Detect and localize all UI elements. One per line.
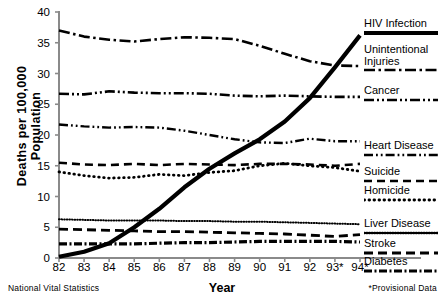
- source-note: National Vital Statistics: [8, 283, 99, 293]
- series-line-stroke: [59, 229, 360, 236]
- chart-figure: Deaths per 100,000 Population 4035302520…: [0, 0, 444, 298]
- legend-swatch: [364, 230, 438, 236]
- legend-item-liver-disease[interactable]: Liver Disease: [364, 218, 438, 236]
- legend-swatch: [364, 152, 438, 158]
- legend-item-diabetes[interactable]: Diabetes: [364, 256, 438, 274]
- series-line-suicide: [59, 163, 360, 166]
- legend-label: Homicide: [364, 185, 438, 197]
- legend-label: Stroke: [364, 238, 438, 250]
- provisional-note: *Provisional Data: [368, 283, 437, 293]
- legend-item-suicide[interactable]: Suicide: [364, 166, 438, 184]
- legend-label: Liver Disease: [364, 218, 438, 230]
- legend-label: Cancer: [364, 85, 438, 97]
- legend-swatch: [364, 197, 438, 203]
- legend-label: Unintentional: [364, 44, 438, 56]
- series-line-unintentional-injuries: [59, 30, 360, 66]
- legend-swatch: [364, 178, 438, 184]
- legend-item-stroke[interactable]: Stroke: [364, 238, 438, 256]
- legend-item-hiv-infection[interactable]: HIV Infection: [364, 18, 438, 36]
- series-line-diabetes: [59, 241, 360, 244]
- legend-item-heart-disease[interactable]: Heart Disease: [364, 140, 438, 158]
- legend-label-line2: Injuries: [364, 56, 438, 68]
- legend-item-homicide[interactable]: Homicide: [364, 185, 438, 203]
- series-line-liver-disease: [59, 219, 360, 224]
- series-line-heart-disease: [59, 125, 360, 144]
- legend-swatch: [364, 30, 438, 36]
- legend-label: HIV Infection: [364, 18, 438, 30]
- legend-swatch: [364, 97, 438, 103]
- legend-label: Suicide: [364, 166, 438, 178]
- legend-item-cancer[interactable]: Cancer: [364, 85, 438, 103]
- legend-item-unintentional-injuries[interactable]: UnintentionalInjuries: [364, 44, 438, 73]
- legend-swatch: [364, 67, 438, 73]
- legend-label: Diabetes: [364, 256, 438, 268]
- legend-swatch: [364, 268, 438, 274]
- legend-label: Heart Disease: [364, 140, 438, 152]
